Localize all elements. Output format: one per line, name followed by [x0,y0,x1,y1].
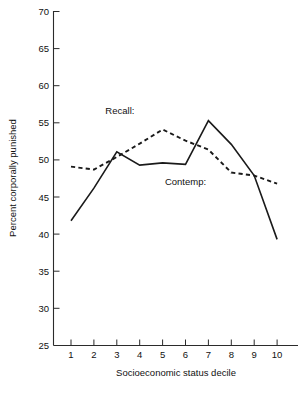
y-tick-label-70: 70 [38,6,49,17]
x-axis-ticks: 1 2 3 4 5 6 7 8 9 10 [68,340,282,361]
series-label-recall: Recall: [105,105,134,116]
y-axis-ticks: 70 65 60 55 50 45 40 35 30 25 [38,6,59,351]
y-tick-label-60: 60 [38,80,49,91]
chart-figure: 70 65 60 55 50 45 40 35 30 25 1 2 [0,0,308,393]
x-tick-label-8: 8 [229,349,234,360]
series-label-contemp: Contemp: [165,176,206,187]
x-tick-label-2: 2 [91,349,96,360]
x-axis-title: Socioeconomic status decile [116,367,236,378]
x-tick-label-6: 6 [183,349,188,360]
y-tick-label-40: 40 [38,229,49,240]
x-tick-label-9: 9 [252,349,257,360]
y-tick-label-45: 45 [38,192,49,203]
y-tick-label-30: 30 [38,303,49,314]
y-tick-label-55: 55 [38,117,49,128]
y-axis-title: Percent corporally punished [7,119,18,237]
line-chart: 70 65 60 55 50 45 40 35 30 25 1 2 [0,0,308,393]
y-tick-label-35: 35 [38,266,49,277]
x-tick-label-7: 7 [206,349,211,360]
x-tick-label-3: 3 [114,349,119,360]
y-tick-label-50: 50 [38,154,49,165]
x-tick-label-1: 1 [68,349,73,360]
y-tick-label-65: 65 [38,43,49,54]
y-tick-label-25: 25 [38,340,49,351]
x-tick-label-5: 5 [160,349,165,360]
x-tick-label-4: 4 [137,349,142,360]
x-tick-label-10: 10 [272,349,283,360]
